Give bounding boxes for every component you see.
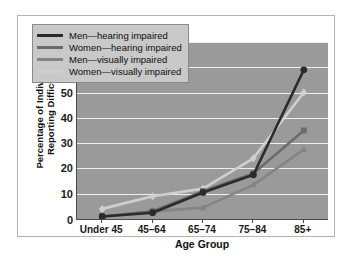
x-tick-mark-0 [101, 219, 102, 223]
x-tick-label-3: 75–84 [238, 224, 266, 235]
data-point-0-3 [250, 171, 257, 178]
legend-item-2: Men—visually impaired [37, 54, 182, 65]
figure-frame: 70605040302010 0 Percentage of Individua… [17, 15, 335, 237]
data-point-0-4 [300, 66, 307, 73]
legend-swatch-3 [37, 70, 63, 73]
data-point-0-1 [149, 209, 156, 216]
y-axis-tick-zero: 0 [47, 214, 73, 226]
data-point-3-0 [99, 205, 106, 213]
chart-page: 70605040302010 0 Percentage of Individua… [0, 0, 356, 277]
data-point-2-4 [300, 146, 307, 152]
y-tick-label-10: 10 [49, 189, 73, 199]
x-tick-label-4: 85+ [294, 224, 311, 235]
legend-label-3: Women—visually impaired [69, 66, 181, 77]
data-point-0-2 [200, 189, 207, 196]
series-0 [99, 66, 307, 219]
x-tick-label-0: Under 45 [80, 224, 123, 235]
chart-legend: Men—hearing impairedWomen—hearing impair… [32, 24, 189, 83]
data-point-3-1 [149, 192, 156, 200]
legend-label-0: Men—hearing impaired [69, 30, 168, 41]
series-2 [99, 146, 308, 219]
legend-swatch-1 [37, 46, 63, 49]
x-tick-mark-1 [152, 219, 153, 223]
x-tick-mark-2 [202, 219, 203, 223]
x-axis-title: Age Group [76, 238, 328, 250]
legend-item-0: Men—hearing impaired [37, 30, 182, 41]
legend-item-3: Women—visually impaired [37, 66, 182, 77]
series-line-1 [102, 131, 304, 217]
legend-item-1: Women—hearing impaired [37, 42, 182, 53]
legend-swatch-2 [37, 58, 63, 61]
legend-swatch-0 [37, 34, 63, 37]
data-point-1-4 [301, 128, 307, 134]
x-tick-mark-3 [252, 219, 253, 223]
x-tick-mark-4 [303, 219, 304, 223]
x-tick-label-2: 65–74 [188, 224, 216, 235]
legend-label-1: Women—hearing impaired [69, 42, 182, 53]
x-tick-label-1: 45–64 [138, 224, 166, 235]
legend-label-2: Men—visually impaired [69, 54, 167, 65]
